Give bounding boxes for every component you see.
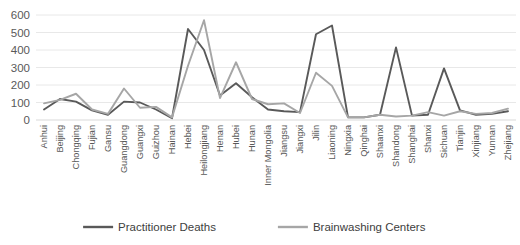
x-axis-category-label: Xinjiang bbox=[471, 125, 481, 158]
x-axis-category-label: Gansu bbox=[103, 125, 113, 152]
x-axis-category-label: Shaanxi bbox=[375, 125, 385, 158]
x-axis-category-label: Tianjin bbox=[455, 125, 465, 152]
x-axis-category-label: Shanxi bbox=[423, 125, 433, 153]
x-axis-category-label: Jiangxi bbox=[295, 125, 305, 154]
y-axis-tick-label: 0 bbox=[24, 114, 30, 126]
chart-canvas: 0100200300400500600 AnhuiBeijingChongqin… bbox=[0, 0, 520, 245]
x-axis-category-label: Inner Mongolia bbox=[263, 124, 273, 186]
x-axis-category-label: Guangdong bbox=[119, 125, 129, 173]
x-axis-category-label: Hainan bbox=[167, 125, 177, 154]
x-axis-category-label: Guangxi bbox=[135, 125, 145, 159]
x-axis-category-label: Yunnan bbox=[487, 125, 497, 156]
x-axis-category-label: Fujian bbox=[87, 125, 97, 150]
x-axis-category-label: Hunan bbox=[247, 125, 257, 152]
line-chart: 0100200300400500600 AnhuiBeijingChongqin… bbox=[0, 0, 520, 245]
x-axis-category-label: Heilongjiang bbox=[199, 125, 209, 176]
y-axis-tick-label: 600 bbox=[11, 9, 30, 21]
legend-label: Practitioner Deaths bbox=[118, 221, 216, 233]
x-axis-category-label: Liaoning bbox=[327, 125, 337, 160]
x-axis-category-label: Anhui bbox=[39, 125, 49, 149]
chart-legend: Practitioner DeathsBrainwashing Centers bbox=[83, 221, 426, 233]
y-axis-tick-label: 200 bbox=[11, 79, 30, 91]
y-axis-tick-label: 500 bbox=[11, 27, 30, 39]
x-axis-category-label: Guizhou bbox=[151, 125, 161, 159]
x-axis-category-label: Shandong bbox=[391, 125, 401, 167]
x-axis-category-label: Shanghai bbox=[407, 125, 417, 164]
x-axis-category-label: Qinghai bbox=[359, 125, 369, 157]
x-axis-category-label: Zhejiang bbox=[503, 125, 513, 160]
y-axis-tick-label: 100 bbox=[11, 97, 30, 109]
x-axis-category-label: Hebei bbox=[183, 125, 193, 149]
x-axis-category-label: Ningxia bbox=[343, 124, 353, 156]
legend-label: Brainwashing Centers bbox=[313, 221, 426, 233]
data-series-lines bbox=[44, 20, 508, 118]
x-axis-category-label: Sichuan bbox=[439, 125, 449, 158]
y-axis-tick-label: 300 bbox=[11, 62, 30, 74]
y-axis-tick-label: 400 bbox=[11, 44, 30, 56]
x-axis-category-label: Jiangsu bbox=[279, 125, 289, 157]
x-axis-category-label: Henan bbox=[215, 125, 225, 152]
y-axis-tick-labels: 0100200300400500600 bbox=[11, 9, 30, 126]
x-axis-category-label: Hubei bbox=[231, 125, 241, 149]
x-axis-category-label: Beijing bbox=[55, 125, 65, 153]
x-axis-category-label: Jilin bbox=[311, 125, 321, 141]
x-axis-category-label: Chongqing bbox=[71, 125, 81, 169]
x-axis-category-labels: AnhuiBeijingChongqingFujianGansuGuangdon… bbox=[39, 124, 513, 186]
